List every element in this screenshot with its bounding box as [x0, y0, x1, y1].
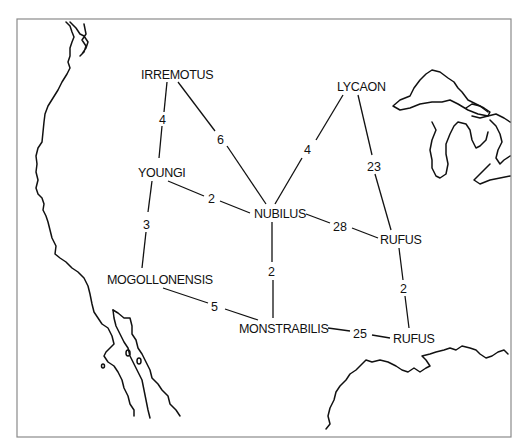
- pacific-coastline: [36, 22, 134, 416]
- node-youngi: YOUNGI: [138, 166, 186, 180]
- lake-superior: [393, 70, 490, 116]
- edge-irremotus-nubilus: [227, 146, 266, 204]
- edge-lycaon-nubilus: [316, 95, 343, 140]
- edge-lycaon-rufus: [375, 174, 391, 230]
- edge-irremotus-nubilus: [178, 82, 215, 131]
- node-nubilus: NUBILUS: [254, 207, 306, 221]
- edge-label: 23: [367, 160, 381, 174]
- edge-rufus-rufus: [405, 296, 409, 328]
- node-irremotus: IRREMOTUS: [141, 68, 213, 82]
- edge-youngi-nubilus: [168, 181, 204, 196]
- island: [102, 364, 105, 368]
- node-rufus-north: RUFUS: [380, 233, 422, 247]
- edge-label: 2: [268, 265, 275, 279]
- edge-label: 3: [143, 218, 150, 232]
- edge-nubilus-rufus: [306, 214, 330, 223]
- edge-mogollonensis-monstrabilis: [225, 309, 258, 320]
- lake-huron-erie: [474, 120, 510, 184]
- node-lycaon: LYCAON: [337, 80, 386, 94]
- edge-youngi-nubilus: [220, 201, 250, 213]
- edge-lycaon-nubilus: [275, 158, 302, 204]
- edge-label: 4: [159, 113, 166, 127]
- edge-irremotus-youngi: [164, 82, 167, 112]
- edge-monstrabilis-rufus: [372, 335, 390, 338]
- edge-nubilus-rufus: [352, 228, 378, 238]
- edge-lycaon-rufus: [358, 95, 372, 155]
- edge-rufus-rufus: [399, 248, 403, 280]
- edge-labels: 4 6 4 23 2 3 28 2 2 5 25: [143, 113, 407, 341]
- lake-michigan: [430, 122, 488, 178]
- node-rufus-south: RUFUS: [393, 332, 435, 346]
- wolf-subspecies-map: 4 6 4 23 2 3 28 2 2 5 25 IRREMOTUS LYCAO…: [0, 0, 527, 448]
- node-labels: IRREMOTUS LYCAON YOUNGI NUBILUS RUFUS MO…: [107, 68, 435, 346]
- edge-mogollonensis-monstrabilis: [163, 288, 208, 303]
- edge-label: 4: [304, 143, 311, 157]
- edge-youngi-mogollonensis: [142, 232, 146, 268]
- island: [137, 358, 141, 364]
- edge-label: 5: [211, 300, 218, 314]
- edge-irremotus-youngi: [159, 126, 162, 158]
- map-frame: [17, 19, 511, 437]
- edge-label: 6: [217, 133, 224, 147]
- edge-label: 2: [208, 192, 215, 206]
- lake-north-shore: [466, 104, 510, 122]
- edge-label: 28: [333, 220, 347, 234]
- edge-monstrabilis-rufus: [328, 328, 350, 331]
- edge-youngi-mogollonensis: [148, 181, 152, 212]
- gulf-coastline: [326, 346, 508, 429]
- edge-label: 2: [400, 282, 407, 296]
- edge-label: 25: [353, 327, 367, 341]
- node-monstrabilis: MONSTRABILIS: [239, 322, 328, 336]
- node-mogollonensis: MOGOLLONENSIS: [107, 273, 213, 287]
